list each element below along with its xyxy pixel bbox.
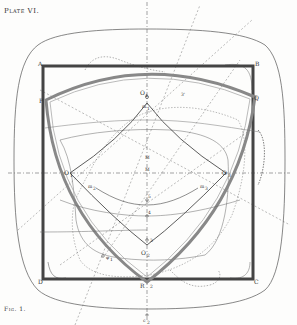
geometric-diagram: A B C D P Q R 2 O 4 m 1 O 1 O 3 O 2 m 2 … <box>0 0 297 325</box>
inner-loop-curve-2 <box>72 107 245 277</box>
point-phi1 <box>102 255 105 258</box>
label-3: 3 <box>150 238 153 243</box>
label-c2-sub: 2 <box>147 320 150 325</box>
label-phi1-sub: 1 <box>110 257 113 262</box>
label-m3-sub: 3 <box>205 186 208 191</box>
label-M-center: M <box>145 167 150 172</box>
label-O3-sub: 3 <box>228 173 231 178</box>
reuleaux-triangle-inner-edge <box>50 78 250 277</box>
plate-figure: Plate VI. <box>0 0 297 325</box>
reuleaux-triangle <box>46 74 255 282</box>
label-M-upper: M <box>145 155 150 160</box>
diagonal-line-5 <box>105 60 240 255</box>
label-O1-sub: 1 <box>70 173 73 178</box>
corner-curve-bottom-right <box>230 262 250 278</box>
label-4: 4 <box>148 210 151 215</box>
label-C: C <box>254 278 259 285</box>
dotted-bulge-right <box>258 130 264 185</box>
label-R-2: 2 <box>150 284 153 289</box>
label-O-top-sub: 4 <box>145 93 148 98</box>
label-Q: Q <box>254 94 259 101</box>
label-5: 5 <box>148 194 151 199</box>
label-m1-sub: 1 <box>147 106 150 111</box>
label-O1: O <box>64 169 69 176</box>
figure-caption: Fig. 1. <box>4 305 26 312</box>
label-m2-sub: 2 <box>93 186 96 191</box>
inner-loop-curve-1 <box>60 129 228 260</box>
label-B: B <box>255 60 260 67</box>
label-c2: c <box>143 318 146 323</box>
label-phi1: φ <box>106 255 109 260</box>
label-A: A <box>37 60 43 67</box>
label-O3: O <box>222 169 227 176</box>
dotted-bulge-top <box>85 57 165 72</box>
label-O2-sub: 2 <box>147 253 150 258</box>
corner-curve-bottom-left <box>48 262 66 278</box>
label-D: D <box>38 278 43 285</box>
label-3-prime: 3' <box>181 92 185 97</box>
label-R: R <box>140 282 145 289</box>
label-P: P <box>39 97 43 104</box>
label-O2: O <box>141 249 146 256</box>
diagonal-line-1 <box>75 5 200 325</box>
